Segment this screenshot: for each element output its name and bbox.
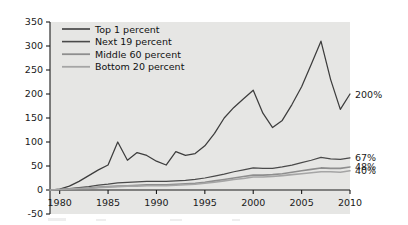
y-tick-label: 250 (25, 64, 43, 75)
legend-label: Top 1 percent (94, 24, 160, 35)
bottom-artifact (96, 219, 106, 221)
legend-label: Bottom 20 percent (95, 61, 185, 72)
y-tick-label: 350 (25, 16, 43, 27)
x-tick-label: 2010 (338, 197, 362, 208)
bottom-artifact (232, 219, 240, 221)
y-tick-label: 50 (31, 160, 43, 171)
bottom-artifact (48, 218, 66, 221)
x-tick-label: 1990 (144, 197, 168, 208)
x-tick-label: 2000 (241, 197, 265, 208)
end-label-bottom-20-percent: 40% (355, 165, 376, 176)
bottom-artifact (170, 219, 182, 221)
y-tick-label: -50 (27, 208, 43, 219)
chart-figure: 350300250200150100500-50 198019851990199… (0, 0, 408, 225)
y-tick-label: 0 (37, 184, 43, 195)
y-tick-label: 150 (25, 112, 43, 123)
legend-label: Next 19 percent (95, 36, 172, 47)
line-chart: 350300250200150100500-50 198019851990199… (0, 0, 408, 225)
x-tick-label: 1995 (193, 197, 217, 208)
y-tick-label: 300 (25, 40, 43, 51)
x-tick-label: 1980 (48, 197, 72, 208)
end-label-top-1-percent: 200% (355, 89, 382, 100)
x-tick-label: 2005 (290, 197, 314, 208)
y-tick-label: 100 (25, 136, 43, 147)
y-tick-label: 200 (25, 88, 43, 99)
x-tick-label: 1985 (96, 197, 120, 208)
legend-label: Middle 60 percent (95, 49, 181, 60)
